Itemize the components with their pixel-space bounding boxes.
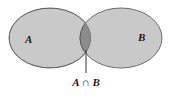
intersection-label: A ∩ B — [71, 76, 99, 88]
set-b-label: B — [137, 31, 145, 43]
set-b-ellipse — [80, 8, 162, 68]
set-a-label: A — [24, 33, 32, 45]
venn-diagram: A B A ∩ B — [0, 0, 174, 97]
